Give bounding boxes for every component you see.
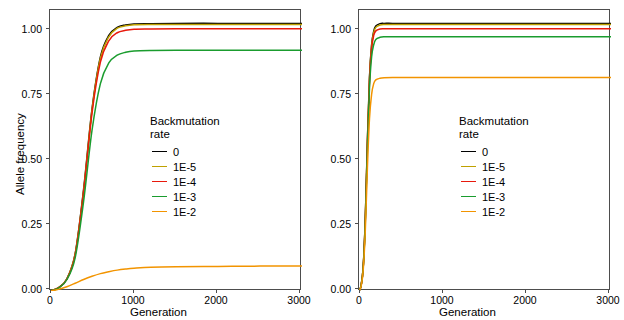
x-tick-label: 0 xyxy=(339,294,379,306)
x-tick-label: 1000 xyxy=(113,294,153,306)
legend-item: 1E-3 xyxy=(150,189,220,204)
y-axis-title: Allele frequency xyxy=(14,113,26,195)
x-tick-mark xyxy=(442,290,443,293)
legend-line-icon xyxy=(150,174,169,189)
x-tick-mark xyxy=(359,290,360,293)
x-tick-label: 1000 xyxy=(422,294,462,306)
x-tick-mark xyxy=(133,290,134,293)
legend-line-icon xyxy=(459,189,478,204)
legend-line-icon xyxy=(459,204,478,219)
legend-item-label: 1E-2 xyxy=(173,206,196,218)
legend-item: 1E-3 xyxy=(459,189,529,204)
legend-title-line2: rate xyxy=(459,128,529,141)
y-tick-label: 1.00 xyxy=(2,23,42,35)
y-tick-label: 0.25 xyxy=(2,218,42,230)
legend-items-right: 0 1E-5 1E-4 1E-3 1E-2 xyxy=(459,144,529,219)
x-tick-label: 2000 xyxy=(505,294,545,306)
x-tick-mark xyxy=(299,290,300,293)
legend-left: Backmutation rate 0 1E-5 1E-4 1E-3 xyxy=(150,115,220,219)
x-tick-label: 0 xyxy=(30,294,70,306)
x-tick-mark xyxy=(525,290,526,293)
legend-item-label: 1E-3 xyxy=(482,191,505,203)
x-tick-label: 2000 xyxy=(196,294,236,306)
legend-item-label: 1E-4 xyxy=(482,176,505,188)
legend-item: 1E-5 xyxy=(459,159,529,174)
x-axis-title: Generation xyxy=(439,306,496,318)
legend-line-icon xyxy=(150,159,169,174)
legend-line-icon xyxy=(459,144,478,159)
x-tick-mark xyxy=(50,290,51,293)
legend-item: 1E-2 xyxy=(459,204,529,219)
legend-line-icon xyxy=(150,144,169,159)
legend-line-icon xyxy=(459,174,478,189)
legend-items-left: 0 1E-5 1E-4 1E-3 1E-2 xyxy=(150,144,220,219)
legend-item-label: 0 xyxy=(173,146,179,158)
legend-item-label: 0 xyxy=(482,146,488,158)
legend-item-label: 1E-5 xyxy=(482,161,505,173)
legend-item: 1E-5 xyxy=(150,159,220,174)
legend-item: 0 xyxy=(459,144,529,159)
series-line xyxy=(50,266,302,291)
legend-title-line1: Backmutation xyxy=(150,115,220,128)
chart-panel-right: 0.00 0.25 0.50 0.75 1.00 0 1000 2000 300… xyxy=(309,0,618,320)
legend-item: 1E-4 xyxy=(150,174,220,189)
legend-right: Backmutation rate 0 1E-5 1E-4 1E-3 xyxy=(459,115,529,219)
y-tick-label: 0.25 xyxy=(311,218,351,230)
legend-item: 0 xyxy=(150,144,220,159)
x-tick-mark xyxy=(216,290,217,293)
legend-title-line1: Backmutation xyxy=(459,115,529,128)
legend-item-label: 1E-3 xyxy=(173,191,196,203)
legend-item-label: 1E-5 xyxy=(173,161,196,173)
x-axis-title: Generation xyxy=(130,306,187,318)
legend-line-icon xyxy=(150,189,169,204)
legend-item: 1E-2 xyxy=(150,204,220,219)
legend-title-line2: rate xyxy=(150,128,220,141)
legend-line-icon xyxy=(150,204,169,219)
legend-item-label: 1E-2 xyxy=(482,206,505,218)
chart-panel-left: 0.00 0.25 0.50 0.75 1.00 0 1000 2000 300… xyxy=(0,0,309,320)
legend-item: 1E-4 xyxy=(459,174,529,189)
legend-item-label: 1E-4 xyxy=(173,176,196,188)
y-tick-label: 0.50 xyxy=(311,153,351,165)
y-tick-label: 0.75 xyxy=(2,88,42,100)
y-tick-label: 1.00 xyxy=(311,23,351,35)
y-tick-label: 0.75 xyxy=(311,88,351,100)
x-tick-label: 3000 xyxy=(588,294,624,306)
x-tick-mark xyxy=(608,290,609,293)
legend-line-icon xyxy=(459,159,478,174)
